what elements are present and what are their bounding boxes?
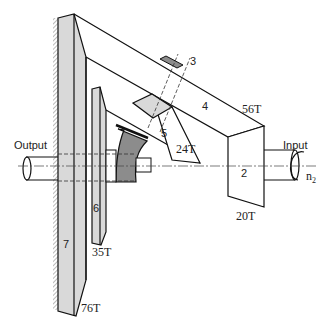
gear-7[interactable] [58,14,86,316]
gear-2-label: 2 [241,167,247,179]
gear-train-diagram: Output Input n2 2 20T 3 4 56T 5 24T 6 35… [0,0,330,331]
ground-hatching [53,18,58,310]
speed-label: n2 [306,169,316,185]
output-label: Output [14,139,47,151]
part-3-label: 3 [190,55,196,67]
gear-4-label: 4 [202,100,208,112]
gear-4-teeth: 56T [242,102,262,116]
gear-6-teeth: 35T [92,245,112,259]
gear-7-teeth: 76T [81,301,101,315]
gear-5-label: 5 [161,127,167,139]
gear-5-teeth: 24T [176,142,196,156]
gear-7-label: 7 [63,238,69,250]
input-label: Input [283,139,307,151]
carrier-arm[interactable] [116,125,151,182]
gear-2-teeth: 20T [236,209,256,223]
gear-6-label: 6 [93,202,99,214]
input-shaft [264,150,304,180]
